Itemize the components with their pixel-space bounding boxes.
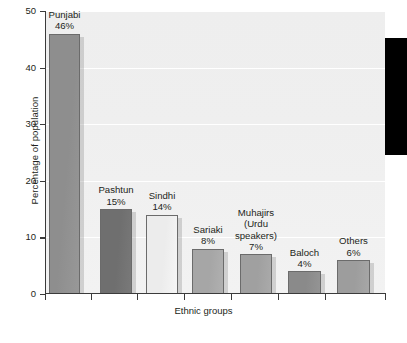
bar[interactable] — [192, 249, 224, 294]
x-tick — [385, 294, 386, 300]
y-tick-label: 30 — [10, 118, 36, 129]
x-tick — [91, 294, 92, 300]
y-tick — [40, 124, 45, 125]
bar[interactable] — [288, 271, 321, 294]
black-block — [385, 38, 407, 155]
x-tick — [184, 294, 185, 300]
y-tick — [40, 68, 45, 69]
bar-label: Others6% — [312, 235, 396, 258]
x-tick — [231, 294, 232, 300]
y-tick — [40, 181, 45, 182]
bar-label-name: (Urdu — [214, 218, 298, 229]
x-tick — [325, 294, 326, 300]
bar-label: Punjabi46% — [23, 9, 107, 32]
x-axis-title: Ethnic groups — [0, 305, 407, 316]
bar-value-label: 46% — [23, 20, 107, 31]
gridline — [46, 181, 385, 182]
bar-label-name: Others — [312, 235, 396, 246]
bar-label-name: speakers) — [214, 230, 298, 241]
x-axis-line — [45, 293, 386, 294]
gridline — [46, 68, 385, 69]
y-tick-label: 10 — [10, 231, 36, 242]
x-tick — [45, 294, 46, 300]
bar[interactable] — [100, 209, 132, 294]
bar-value-label: 14% — [120, 201, 204, 212]
bar[interactable] — [49, 34, 80, 294]
bar-label: Sindhi14% — [120, 190, 204, 213]
bar-label: Muhajirs(Urduspeakers)7% — [214, 207, 298, 253]
bar-label-name: Sindhi — [120, 190, 204, 201]
bar-value-label: 6% — [312, 247, 396, 258]
ethnic-groups-bar-chart: Percentage of population 01020304050 Eth… — [0, 0, 407, 343]
bar-label-name: Muhajirs — [214, 207, 298, 218]
bar-value-label: 4% — [263, 258, 347, 269]
y-tick-label: 0 — [10, 288, 36, 299]
y-axis-title: Percentage of population — [29, 41, 40, 261]
x-tick — [137, 294, 138, 300]
y-tick-label: 20 — [10, 175, 36, 186]
y-tick-label: 40 — [10, 62, 36, 73]
y-tick — [40, 237, 45, 238]
bar-label-name: Punjabi — [23, 9, 107, 20]
gridline — [46, 124, 385, 125]
x-tick — [278, 294, 279, 300]
